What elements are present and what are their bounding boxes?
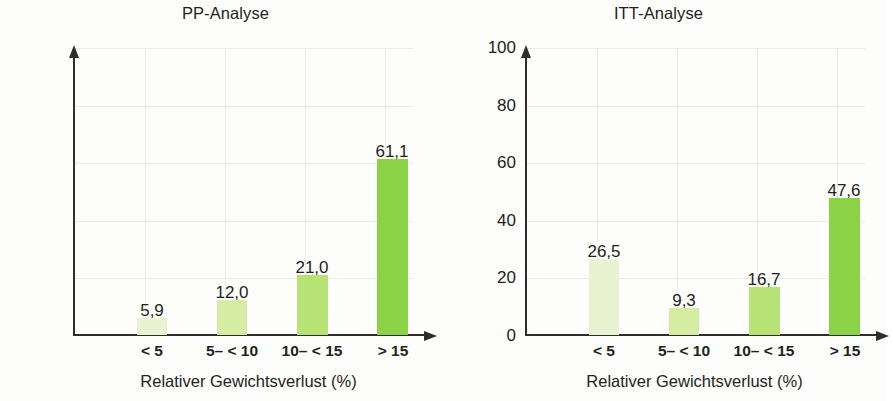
gridline-h-80-pp [73, 106, 413, 107]
x-axis-label-pp: Relativer Gewichtsverlust (%) [27, 372, 470, 391]
chart-title-pp: PP-Analyse [4, 4, 447, 23]
bar-value-pp-1: 12,0 [197, 283, 267, 303]
y-axis-line-pp [73, 48, 75, 336]
y-axis-tick-labels-itt: 100 80 60 40 20 0 [470, 42, 516, 336]
x-tick-pp-3: > 15 [343, 342, 443, 360]
x-axis-label-itt: Relativer Gewichtsverlust (%) [473, 372, 893, 391]
bar-value-pp-2: 21,0 [277, 258, 347, 278]
bar-itt-3[interactable] [829, 198, 860, 335]
bar-value-itt-2: 16,7 [729, 270, 799, 290]
bar-value-pp-0: 5,9 [117, 301, 187, 321]
y-axis-arrow-icon-pp [69, 45, 79, 58]
chart-title-itt: ITT-Analyse [437, 4, 880, 23]
chart-panel-pp: PP-Analyse 100 80 60 40 20 0 Anteil der … [0, 0, 443, 401]
bar-value-itt-0: 26,5 [569, 242, 639, 262]
y-tick-100-itt: 100 [470, 38, 516, 58]
bar-value-pp-3: 61,1 [357, 142, 427, 162]
y-tick-40-itt: 40 [470, 211, 516, 231]
bar-itt-0[interactable] [589, 259, 619, 335]
x-axis-line-pp [73, 334, 425, 336]
bar-itt-2[interactable] [749, 287, 780, 335]
y-axis-line-itt [525, 48, 527, 336]
bar-pp-1[interactable] [217, 300, 247, 335]
bar-pp-2[interactable] [297, 275, 328, 335]
gridline-h-40-itt [525, 221, 865, 222]
gridline-h-100-pp [73, 48, 413, 49]
plot-area-itt: 26,5 9,3 16,7 47,6 < 5 5– < 10 10– < 15 … [525, 42, 892, 336]
x-tick-itt-3: > 15 [795, 342, 893, 360]
gridline-h-20-itt [525, 278, 865, 279]
gridline-h-40-pp [73, 221, 413, 222]
plot-area-pp: 5,9 12,0 21,0 61,1 < 5 5– < 10 10– < 15 … [73, 42, 440, 336]
y-tick-80-itt: 80 [470, 96, 516, 116]
x-axis-line-itt [525, 334, 877, 336]
bar-itt-1[interactable] [669, 308, 699, 335]
bar-value-itt-3: 47,6 [809, 181, 879, 201]
bar-pp-3[interactable] [377, 159, 408, 335]
y-tick-0-itt: 0 [470, 326, 516, 346]
chart-panel-itt: ITT-Analyse 100 80 60 40 20 0 [443, 0, 886, 401]
x-axis-arrow-icon-pp [424, 331, 437, 341]
gridline-h-80-itt [525, 106, 865, 107]
bar-value-itt-1: 9,3 [649, 291, 719, 311]
gridline-v-1-pp [145, 48, 146, 336]
gridline-h-20-pp [73, 278, 413, 279]
y-tick-60-itt: 60 [470, 153, 516, 173]
y-tick-20-itt: 20 [470, 268, 516, 288]
gridline-h-60-itt [525, 163, 865, 164]
gridline-h-100-itt [525, 48, 865, 49]
x-axis-arrow-icon-itt [876, 331, 889, 341]
gridline-h-60-pp [73, 163, 413, 164]
y-axis-arrow-icon-itt [521, 45, 531, 58]
